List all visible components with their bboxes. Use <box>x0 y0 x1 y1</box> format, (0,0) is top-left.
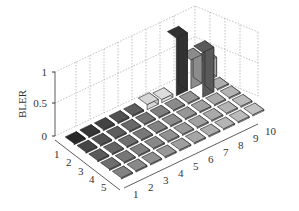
svg-text:3: 3 <box>163 174 169 186</box>
bler-3d-bar-chart: 1 0.5 0 BLER 1 2 3 4 5 1 2 3 4 5 6 7 8 9… <box>0 0 299 211</box>
grid <box>55 6 258 136</box>
bar-face-top <box>124 104 144 116</box>
svg-text:7: 7 <box>223 146 229 158</box>
bar-face-top <box>94 118 114 130</box>
svg-text:1: 1 <box>54 148 60 160</box>
bar-face-top <box>109 111 129 123</box>
svg-text:9: 9 <box>253 132 259 144</box>
svg-text:5: 5 <box>101 181 107 193</box>
svg-text:5: 5 <box>193 160 199 172</box>
svg-text:6: 6 <box>208 153 214 165</box>
svg-text:0.5: 0.5 <box>33 97 47 109</box>
svg-text:4: 4 <box>89 173 95 185</box>
svg-text:0: 0 <box>42 130 48 142</box>
z-axis-label: BLER <box>16 89 28 118</box>
bars <box>138 26 216 109</box>
z-axis: 1 0.5 0 BLER <box>16 66 55 142</box>
svg-text:4: 4 <box>178 167 184 179</box>
svg-text:2: 2 <box>66 156 72 168</box>
bar-face-top <box>65 132 85 144</box>
svg-text:8: 8 <box>238 139 244 151</box>
bar-face-top <box>80 125 100 137</box>
svg-text:1: 1 <box>133 188 139 200</box>
svg-text:1: 1 <box>42 66 48 78</box>
svg-text:3: 3 <box>78 165 84 177</box>
svg-text:2: 2 <box>148 181 154 193</box>
svg-text:10: 10 <box>265 125 277 137</box>
